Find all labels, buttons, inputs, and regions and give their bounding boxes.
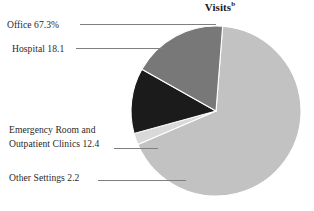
slice-label-emergency-room-outpatient: Emergency Room and Outpatient Clinics 12…	[9, 123, 121, 150]
slice-label-emergency-room-line2: Outpatient Clinics 12.4	[9, 137, 121, 151]
slice-label-office: Office 67.3%	[7, 19, 59, 32]
slice-label-other-settings-text: Other Settings 2.2	[9, 172, 79, 183]
slice-label-emergency-room-line1: Emergency Room and	[9, 123, 121, 137]
slice-label-hospital-text: Hospital 18.1	[12, 43, 64, 54]
pie-chart-figure: Visitsb Office 67.3% Hospital 18.1 Emerg…	[0, 0, 314, 211]
slice-label-hospital: Hospital 18.1	[12, 43, 64, 56]
slice-label-office-text: Office 67.3%	[7, 19, 59, 30]
slice-label-other-settings: Other Settings 2.2	[9, 172, 79, 185]
